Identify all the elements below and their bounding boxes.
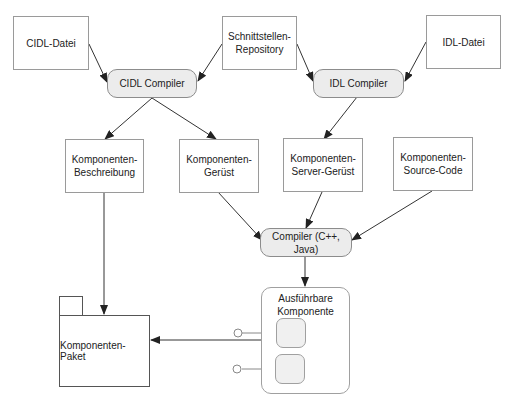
node-label: CIDL-Datei [26,37,75,50]
node-compiler-cpp-java: Compiler (C++, Java) [260,228,352,257]
node-label: Komponenten- Beschreibung [72,153,138,179]
node-label: Komponenten-Paket [60,340,149,362]
node-komponenten-beschreibung: Komponenten- Beschreibung [65,139,144,193]
component-port-2 [275,354,305,384]
node-komponenten-server-geruest: Komponenten- Server-Gerüst [283,138,363,192]
node-idl-compiler: IDL Compiler [313,69,404,98]
node-label: Komponenten- Server-Gerüst [290,152,356,178]
node-label: Komponenten- Source-Code [400,151,466,177]
node-label: Schnittstellen- Repository [228,30,291,56]
node-cidl-datei: CIDL-Datei [13,16,89,70]
node-ausfuehrbare-komponente: Ausführbare Komponente [261,287,350,394]
node-label: Ausführbare Komponente [262,292,349,318]
node-komponenten-geruest: Komponenten- Gerüst [179,139,259,193]
node-idl-datei: IDL-Datei [426,15,501,69]
node-cidl-compiler: CIDL Compiler [107,69,197,98]
node-komponenten-source-code: Komponenten- Source-Code [393,137,473,191]
node-label: IDL-Datei [442,36,484,49]
node-label: Compiler (C++, Java) [272,230,340,256]
package-tab [59,296,83,316]
component-port-1 [276,318,306,348]
node-label: Komponenten- Gerüst [186,153,252,179]
node-komponenten-paket: Komponenten-Paket [59,315,150,387]
node-schnittstellen-repository: Schnittstellen- Repository [222,16,297,70]
node-label: CIDL Compiler [119,77,184,90]
node-label: IDL Compiler [330,77,388,90]
